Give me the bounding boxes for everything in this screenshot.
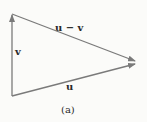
label-u: u (66, 81, 73, 92)
vector-u-arrow (12, 64, 135, 96)
caption: (a) (61, 104, 75, 115)
label-u-minus-v: u − v (55, 22, 83, 33)
label-v: v (15, 46, 21, 57)
vector-diagram: u − v v u (a) (0, 0, 147, 122)
